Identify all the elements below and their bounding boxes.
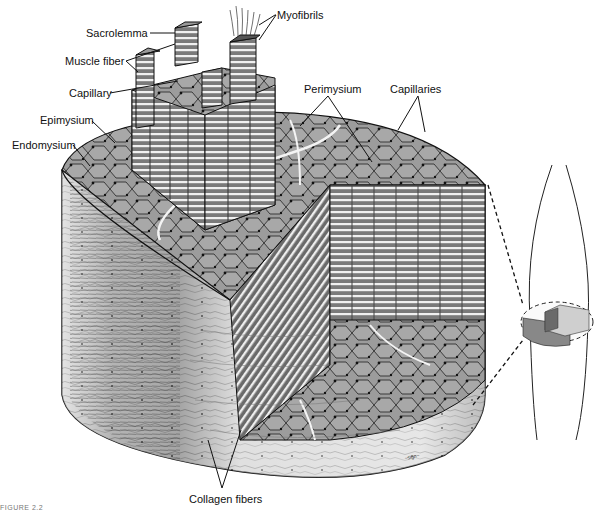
muscle-diagram: ~sign~ <box>0 0 596 513</box>
label-epimysium: Epimysium <box>40 114 94 126</box>
label-muscle-fiber: Muscle fiber <box>65 55 124 67</box>
label-perimysium: Perimysium <box>304 83 361 95</box>
label-endomysium: Endomysium <box>12 139 76 151</box>
label-myofibrils: Myofibrils <box>277 9 323 21</box>
zoom-line-top <box>488 185 523 305</box>
figure-caption: FIGURE 2.2 <box>0 504 43 511</box>
label-capillary: Capillary <box>69 87 112 99</box>
label-collagen-fibers: Collagen fibers <box>189 493 262 505</box>
limb-inset <box>473 165 593 440</box>
diagram-artwork: ~sign~ <box>0 0 596 513</box>
label-sacrolemma: Sacrolemma <box>86 27 148 39</box>
label-capillaries: Capillaries <box>390 83 441 95</box>
